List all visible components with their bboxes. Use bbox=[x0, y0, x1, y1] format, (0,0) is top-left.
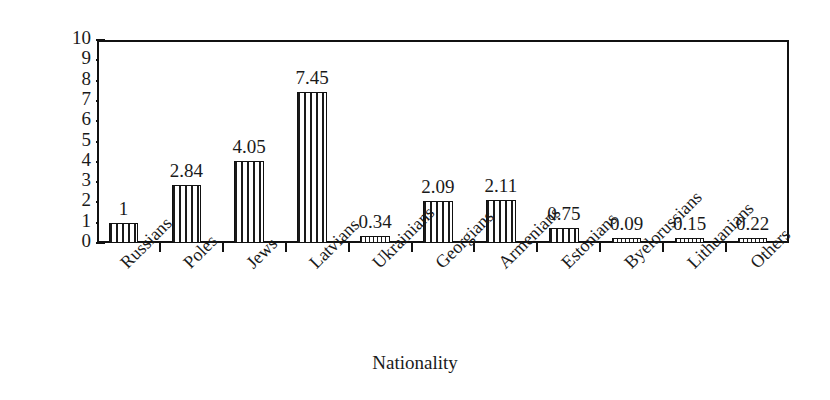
x-axis-tick-mark bbox=[599, 243, 601, 252]
y-axis-tick-label: 0 bbox=[61, 231, 91, 250]
bar bbox=[297, 92, 327, 243]
y-axis-tick-label: 7 bbox=[61, 89, 91, 108]
bar-value-label: 2.09 bbox=[403, 177, 473, 196]
x-axis-tick-mark bbox=[348, 243, 350, 252]
x-axis-tick-mark bbox=[222, 243, 224, 252]
bar-value-label: 1 bbox=[88, 199, 158, 218]
x-axis-tick-mark bbox=[536, 243, 538, 252]
x-axis-tick-mark bbox=[473, 243, 475, 252]
bar-value-label: 2.11 bbox=[466, 176, 536, 195]
y-axis-tick-label: 10 bbox=[61, 28, 91, 47]
y-axis-tick-label: 1 bbox=[61, 211, 91, 230]
x-axis-title: Nationality bbox=[0, 352, 830, 374]
bar-value-label: 2.84 bbox=[151, 161, 221, 180]
y-axis-tick-label: 5 bbox=[61, 130, 91, 149]
bar-value-label: 4.05 bbox=[214, 137, 284, 156]
y-axis-tick-label: 9 bbox=[61, 48, 91, 67]
x-axis-tick-mark bbox=[285, 243, 287, 252]
y-axis-tick-label: 4 bbox=[61, 150, 91, 169]
bar bbox=[234, 161, 264, 243]
bar-value-label: 7.45 bbox=[277, 68, 347, 87]
y-axis-tick-label: 6 bbox=[61, 109, 91, 128]
x-axis-tick-mark bbox=[411, 243, 413, 252]
bar bbox=[172, 185, 202, 243]
y-axis-tick-label: 3 bbox=[61, 170, 91, 189]
bar-chart-figure: Percentage 012345678910 12.844.057.450.3… bbox=[0, 0, 830, 400]
y-axis-tick-label: 2 bbox=[61, 190, 91, 209]
y-axis-tick-label: 8 bbox=[61, 69, 91, 88]
x-axis-tick-mark bbox=[159, 243, 161, 252]
